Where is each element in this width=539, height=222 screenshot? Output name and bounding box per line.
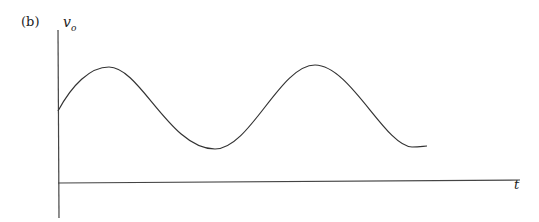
waveform-plot xyxy=(0,0,539,222)
y-axis xyxy=(58,30,59,218)
x-axis xyxy=(58,180,520,183)
waveform-curve xyxy=(58,65,427,149)
